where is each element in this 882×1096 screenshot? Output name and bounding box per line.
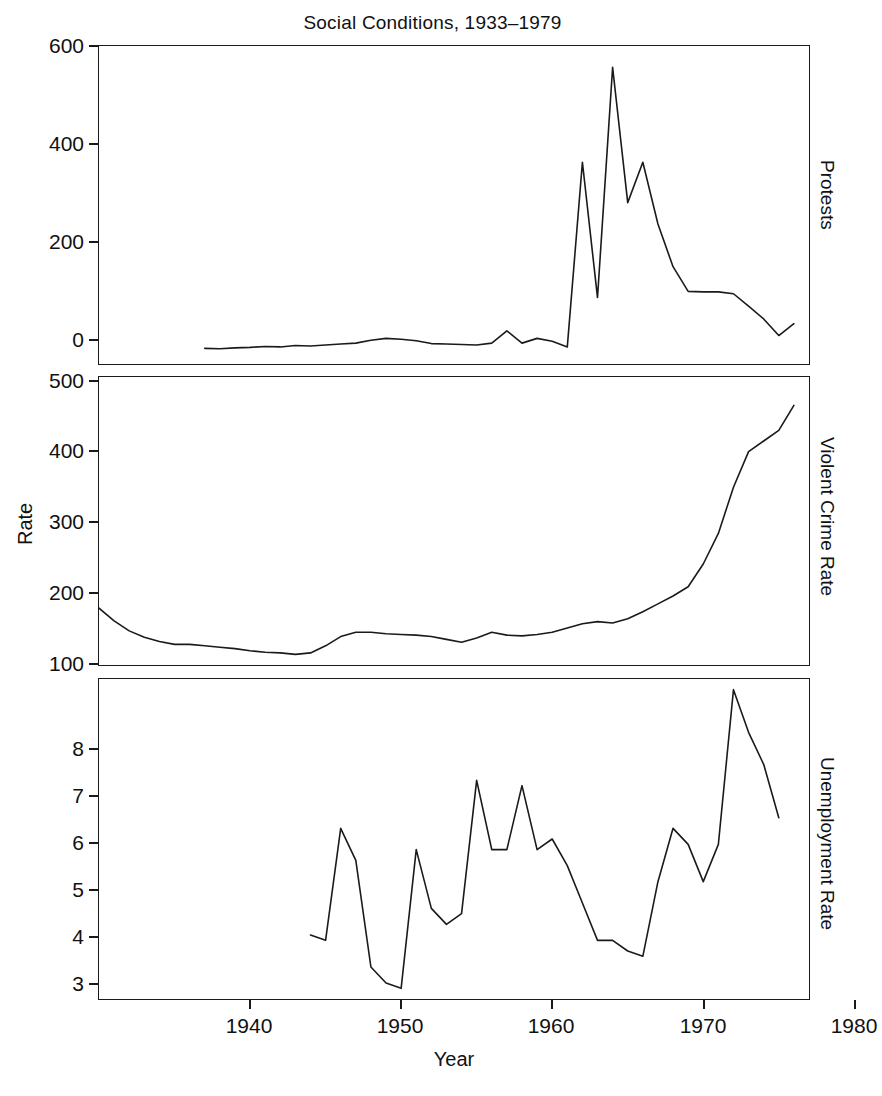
- panel3-ytick-7: 7: [22, 784, 84, 808]
- panel2-ytick-500: 500: [22, 369, 84, 393]
- panel2-ytick-400: 400: [22, 439, 84, 463]
- panel1-tickmark-400: [89, 143, 98, 145]
- panel-unemployment-rate: [98, 678, 810, 1000]
- xtick-mark-1980: [854, 1000, 856, 1009]
- panel3-tickmark-4: [89, 936, 98, 938]
- xtick-label-1950: 1950: [350, 1014, 450, 1038]
- panel3-tickmark-3: [89, 983, 98, 985]
- panel2-tickmark-200: [89, 592, 98, 594]
- xtick-label-1940: 1940: [199, 1014, 299, 1038]
- panel1-tickmark-600: [89, 45, 98, 47]
- x-axis-label: Year: [404, 1048, 504, 1071]
- panel1-ytick-400: 400: [22, 132, 84, 156]
- panel-violent-crime-rate: [98, 376, 810, 666]
- panel-protests: [98, 45, 810, 365]
- panel2-tickmark-400: [89, 450, 98, 452]
- protests-line-plot: [99, 46, 809, 364]
- strip-label-violent-crime-rate: Violent Crime Rate: [816, 437, 838, 596]
- xtick-mark-1950: [400, 1000, 402, 1009]
- strip-label-unemployment-rate: Unemployment Rate: [816, 757, 838, 930]
- y-axis-label: Rate: [14, 503, 37, 545]
- panel1-tickmark-0: [89, 339, 98, 341]
- unemployment-line-plot: [99, 679, 809, 999]
- panel1-ytick-200: 200: [22, 230, 84, 254]
- chart-title: Social Conditions, 1933–1979: [0, 12, 865, 34]
- panel1-ytick-600: 600: [22, 34, 84, 58]
- xtick-label-1980: 1980: [804, 1014, 882, 1038]
- panel3-tickmark-6: [89, 842, 98, 844]
- panel3-tickmark-8: [89, 748, 98, 750]
- panel2-tickmark-300: [89, 521, 98, 523]
- panel3-ytick-5: 5: [22, 878, 84, 902]
- panel2-tickmark-100: [89, 663, 98, 665]
- xtick-mark-1970: [703, 1000, 705, 1009]
- panel3-ytick-4: 4: [22, 925, 84, 949]
- panel1-ytick-0: 0: [22, 328, 84, 352]
- panel3-tickmark-5: [89, 889, 98, 891]
- panel2-ytick-200: 200: [22, 581, 84, 605]
- panel3-tickmark-7: [89, 795, 98, 797]
- xtick-label-1970: 1970: [653, 1014, 753, 1038]
- panel3-ytick-3: 3: [22, 972, 84, 996]
- panel3-ytick-8: 8: [22, 737, 84, 761]
- panel3-ytick-6: 6: [22, 831, 84, 855]
- panel1-tickmark-200: [89, 241, 98, 243]
- xtick-mark-1940: [249, 1000, 251, 1009]
- violent-crime-line-plot: [99, 377, 809, 665]
- strip-label-protests: Protests: [816, 160, 838, 230]
- xtick-label-1960: 1960: [501, 1014, 601, 1038]
- panel2-ytick-100: 100: [22, 652, 84, 676]
- xtick-mark-1960: [551, 1000, 553, 1009]
- panel2-tickmark-500: [89, 380, 98, 382]
